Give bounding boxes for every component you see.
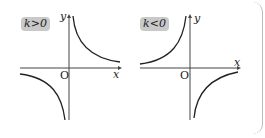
- origin-label: O: [180, 69, 189, 82]
- y-axis-label: y: [194, 12, 200, 25]
- panel-k-negative: k<0 y x O: [130, 0, 265, 138]
- condition-badge: k>0: [21, 17, 50, 31]
- condition-badge: k<0: [140, 17, 169, 31]
- curve-quadrant-1: [73, 16, 120, 62]
- origin-label: O: [60, 69, 69, 82]
- panel-k-positive: k>0 y x O: [0, 0, 130, 138]
- x-axis-label: x: [234, 56, 240, 69]
- y-axis-label: y: [60, 10, 66, 23]
- x-axis-label: x: [113, 68, 119, 81]
- frame-bracket: [252, 2, 263, 134]
- y-arrow-icon: [188, 14, 192, 18]
- curve-quadrant-3: [20, 74, 65, 120]
- curve-quadrant-4: [194, 72, 238, 118]
- y-arrow-icon: [67, 14, 71, 18]
